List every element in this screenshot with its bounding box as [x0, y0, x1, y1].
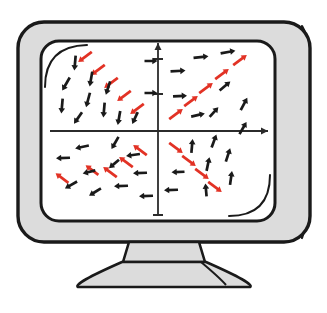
- stand-neck: [123, 242, 205, 262]
- illustration-canvas: [0, 0, 327, 313]
- monitor-stand: [77, 242, 250, 287]
- monitor-illustration: [0, 0, 327, 313]
